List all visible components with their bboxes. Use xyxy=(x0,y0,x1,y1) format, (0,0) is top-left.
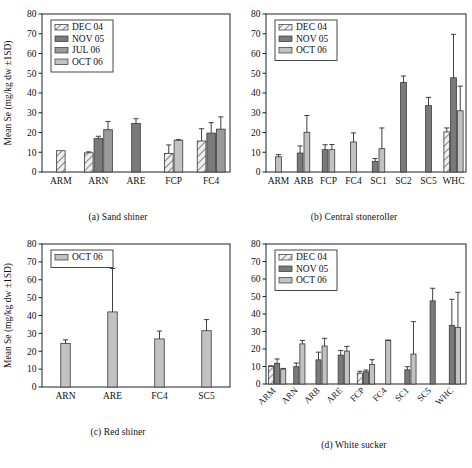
svg-text:80: 80 xyxy=(27,239,37,249)
svg-text:OCT 06: OCT 06 xyxy=(296,275,327,285)
svg-text:NOV 05: NOV 05 xyxy=(72,34,105,44)
panel-c-plot: 01020304050607080Mean Se (mg/kg dw ±1SD)… xyxy=(0,234,236,427)
svg-text:ARE: ARE xyxy=(127,176,146,186)
svg-text:80: 80 xyxy=(27,9,37,19)
svg-text:OCT 06: OCT 06 xyxy=(296,45,327,55)
svg-text:ARM: ARM xyxy=(50,176,72,186)
svg-text:0: 0 xyxy=(256,379,261,389)
svg-text:ARM: ARM xyxy=(268,176,290,186)
svg-text:ARE: ARE xyxy=(324,385,344,405)
svg-text:50: 50 xyxy=(27,69,37,79)
svg-text:ARN: ARN xyxy=(55,391,75,401)
svg-text:WHC: WHC xyxy=(442,176,464,186)
svg-text:20: 20 xyxy=(251,128,261,138)
svg-text:FCP: FCP xyxy=(165,176,182,186)
svg-text:OCT 06: OCT 06 xyxy=(72,252,103,262)
svg-text:SC5: SC5 xyxy=(415,385,433,403)
svg-text:50: 50 xyxy=(251,292,261,302)
svg-text:SC5: SC5 xyxy=(198,391,215,401)
panel-d-white-sucker: 01020304050607080ARMARNARBAREFCPFC4SC1SC… xyxy=(236,234,472,468)
svg-text:ARN: ARN xyxy=(88,176,108,186)
svg-text:10: 10 xyxy=(251,148,261,158)
svg-text:0: 0 xyxy=(32,167,37,177)
svg-text:SC1: SC1 xyxy=(393,385,411,403)
svg-text:70: 70 xyxy=(251,257,261,267)
svg-text:50: 50 xyxy=(251,69,261,79)
panel-c-red-shiner: 01020304050607080Mean Se (mg/kg dw ±1SD)… xyxy=(0,234,236,468)
svg-text:NOV 05: NOV 05 xyxy=(296,264,329,274)
svg-text:10: 10 xyxy=(27,364,37,374)
svg-text:SC5: SC5 xyxy=(420,176,437,186)
svg-text:ARB: ARB xyxy=(294,176,314,186)
svg-text:0: 0 xyxy=(256,167,261,177)
svg-text:70: 70 xyxy=(27,29,37,39)
svg-text:10: 10 xyxy=(251,362,261,372)
svg-text:70: 70 xyxy=(27,257,37,267)
svg-text:80: 80 xyxy=(251,9,261,19)
panel-b-plot: 01020304050607080ARMARBFCPFC4SC1SC2SC5WH… xyxy=(236,0,472,212)
svg-text:40: 40 xyxy=(251,309,261,319)
svg-text:60: 60 xyxy=(27,275,37,285)
svg-text:30: 30 xyxy=(251,327,261,337)
panel-b-caption: (b) Central stoneroller xyxy=(236,212,472,222)
svg-text:30: 30 xyxy=(251,108,261,118)
svg-text:DEC 04: DEC 04 xyxy=(72,22,103,32)
panel-a-sand-shiner: 01020304050607080Mean Se (mg/kg dw ±1SD)… xyxy=(0,0,236,234)
svg-text:30: 30 xyxy=(27,329,37,339)
panel-d-caption: (d) White sucker xyxy=(236,440,472,450)
panel-a-caption: (a) Sand shiner xyxy=(0,212,236,222)
svg-text:WHC: WHC xyxy=(433,385,455,407)
svg-text:FC4: FC4 xyxy=(203,176,220,186)
panel-c-caption: (c) Red shiner xyxy=(0,427,236,437)
svg-text:FCP: FCP xyxy=(348,385,366,403)
svg-text:FC4: FC4 xyxy=(345,176,362,186)
panel-a-plot: 01020304050607080Mean Se (mg/kg dw ±1SD)… xyxy=(0,0,236,212)
figure-selenium-panels: 01020304050607080Mean Se (mg/kg dw ±1SD)… xyxy=(0,0,472,468)
svg-text:FC4: FC4 xyxy=(371,385,389,403)
svg-text:20: 20 xyxy=(27,128,37,138)
svg-text:20: 20 xyxy=(27,347,37,357)
panel-b-central-stoneroller: 01020304050607080ARMARBFCPFC4SC1SC2SC5WH… xyxy=(236,0,472,234)
svg-text:60: 60 xyxy=(27,49,37,59)
svg-text:FCP: FCP xyxy=(320,176,337,186)
svg-text:80: 80 xyxy=(251,239,261,249)
panel-d-plot: 01020304050607080ARMARNARBAREFCPFC4SC1SC… xyxy=(236,234,472,440)
svg-text:40: 40 xyxy=(251,88,261,98)
svg-text:50: 50 xyxy=(27,293,37,303)
svg-text:30: 30 xyxy=(27,108,37,118)
svg-text:40: 40 xyxy=(27,311,37,321)
svg-text:60: 60 xyxy=(251,49,261,59)
svg-text:DEC 04: DEC 04 xyxy=(296,22,327,32)
svg-text:ARB: ARB xyxy=(302,385,322,405)
svg-text:OCT 06: OCT 06 xyxy=(72,57,103,67)
svg-text:FC4: FC4 xyxy=(151,391,168,401)
svg-text:Mean Se (mg/kg dw ±1SD): Mean Se (mg/kg dw ±1SD) xyxy=(3,263,14,368)
svg-text:40: 40 xyxy=(27,88,37,98)
svg-text:20: 20 xyxy=(251,344,261,354)
svg-text:0: 0 xyxy=(32,382,37,392)
svg-text:DEC 04: DEC 04 xyxy=(296,252,327,262)
svg-text:ARE: ARE xyxy=(103,391,122,401)
svg-text:Mean Se (mg/kg dw ±1SD): Mean Se (mg/kg dw ±1SD) xyxy=(3,41,14,146)
svg-text:ARN: ARN xyxy=(279,385,300,406)
svg-text:SC1: SC1 xyxy=(370,176,387,186)
svg-text:60: 60 xyxy=(251,274,261,284)
svg-text:70: 70 xyxy=(251,29,261,39)
svg-text:SC2: SC2 xyxy=(395,176,412,186)
svg-text:NOV 05: NOV 05 xyxy=(296,34,329,44)
svg-text:JUL 06: JUL 06 xyxy=(72,45,100,55)
svg-text:10: 10 xyxy=(27,148,37,158)
